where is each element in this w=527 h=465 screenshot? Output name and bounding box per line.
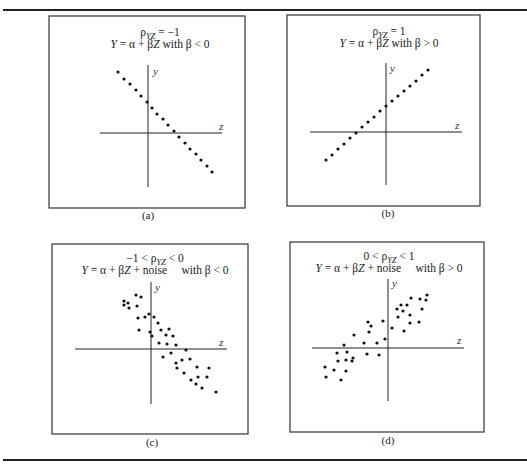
data-point — [395, 307, 398, 310]
scatter-points — [323, 293, 428, 381]
data-point — [402, 89, 405, 92]
data-point — [390, 99, 393, 102]
data-point — [150, 106, 153, 109]
data-point — [408, 84, 411, 87]
panel-caption: (a) — [142, 209, 155, 222]
data-point — [366, 120, 369, 123]
data-point — [157, 341, 160, 344]
data-point — [345, 350, 348, 353]
data-point — [128, 82, 131, 85]
data-point — [425, 293, 428, 296]
data-point — [420, 307, 423, 310]
data-point — [207, 366, 210, 369]
data-point — [351, 356, 354, 359]
data-point — [122, 299, 125, 302]
data-point — [324, 375, 327, 378]
data-point — [183, 141, 186, 144]
panel-b: ρYZ = 1Y = α + βZ with β > 0yz(b) — [287, 15, 480, 220]
data-point — [390, 326, 393, 329]
data-point — [350, 359, 353, 362]
data-point — [174, 361, 177, 364]
data-point — [401, 309, 404, 312]
data-point — [180, 358, 183, 361]
panel-title-equation: Y = α + βZ with β > 0 — [339, 37, 438, 50]
scatter-points — [324, 68, 429, 161]
data-point — [214, 390, 217, 393]
data-point — [200, 386, 203, 389]
data-point — [195, 365, 198, 368]
data-point — [139, 295, 142, 298]
data-point — [210, 170, 213, 173]
data-point — [402, 329, 405, 332]
data-point — [174, 343, 177, 346]
data-point — [150, 334, 153, 337]
data-point — [409, 296, 412, 299]
panel-title-equation: Y = α + βZ + noise with β > 0 — [315, 262, 462, 275]
data-point — [171, 334, 174, 337]
z-axis-label: z — [218, 336, 224, 348]
data-point — [336, 359, 339, 362]
data-point — [378, 109, 381, 112]
data-point — [194, 152, 197, 155]
data-point — [159, 328, 162, 331]
data-point — [165, 342, 168, 345]
panel-title-equation: Y = α + βZ + noise with β < 0 — [81, 264, 228, 277]
data-point — [384, 104, 387, 107]
data-point — [396, 94, 399, 97]
data-point — [367, 330, 370, 333]
panel-title-equation: Y = α + βZ with β < 0 — [110, 38, 209, 51]
data-point — [399, 303, 402, 306]
data-point — [169, 351, 172, 354]
data-point — [348, 136, 351, 139]
data-point — [199, 158, 202, 161]
data-point — [420, 73, 423, 76]
data-point — [417, 320, 420, 323]
data-point — [344, 369, 347, 372]
data-point — [167, 327, 170, 330]
data-point — [152, 315, 155, 318]
data-point — [369, 324, 372, 327]
data-point — [136, 316, 139, 319]
data-point — [188, 147, 191, 150]
data-point — [339, 378, 342, 381]
data-point — [352, 333, 355, 336]
data-point — [137, 328, 140, 331]
data-point — [408, 321, 411, 324]
data-point — [366, 320, 369, 323]
data-point — [324, 158, 327, 161]
data-point — [134, 293, 137, 296]
data-point — [418, 297, 421, 300]
panel-d: 0 < ρYZ < 1Y = α + βZ + noise with β > 0… — [290, 242, 484, 447]
data-point — [205, 164, 208, 167]
data-point — [414, 79, 417, 82]
y-axis-label: y — [391, 277, 397, 289]
data-point — [182, 371, 185, 374]
data-point — [396, 315, 399, 318]
data-point — [336, 147, 339, 150]
scatter-points — [122, 293, 217, 393]
data-point — [381, 319, 384, 322]
panel-caption: (d) — [382, 434, 395, 447]
data-point — [335, 351, 338, 354]
data-point — [323, 365, 326, 368]
data-point — [156, 321, 159, 324]
data-point — [408, 313, 411, 316]
panel-caption: (b) — [382, 207, 395, 220]
data-point — [139, 94, 142, 97]
scatter-points — [116, 70, 213, 173]
data-point — [127, 306, 130, 309]
data-point — [194, 382, 197, 385]
data-point — [426, 68, 429, 71]
data-point — [122, 77, 125, 80]
data-point — [148, 330, 151, 333]
data-point — [166, 123, 169, 126]
data-point — [330, 153, 333, 156]
data-point — [205, 375, 208, 378]
data-point — [342, 343, 345, 346]
data-point — [116, 70, 119, 73]
y-axis-label: y — [389, 62, 395, 74]
panel-caption: (c) — [146, 436, 159, 449]
data-point — [126, 301, 129, 304]
data-point — [344, 358, 347, 361]
correlation-figure: ρYZ = −1Y = α + βZ with β < 0yz(a)ρYZ = … — [0, 0, 527, 465]
